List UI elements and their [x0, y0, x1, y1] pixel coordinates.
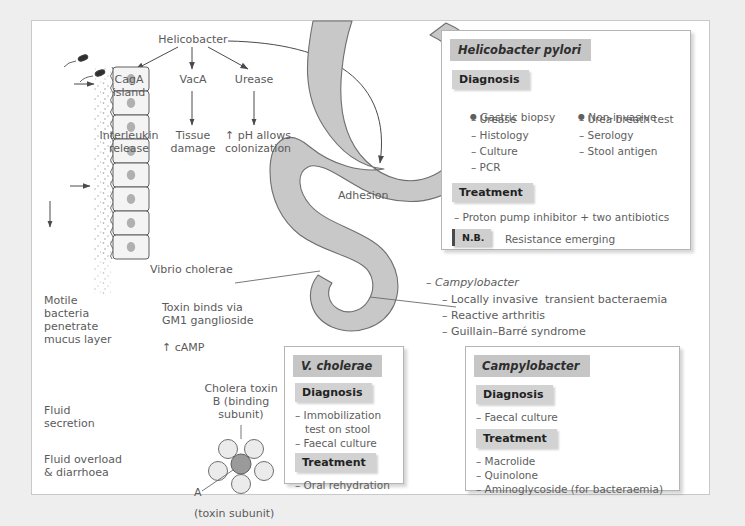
- vibrio-leader-line: [235, 271, 320, 283]
- hpylori-diagnosis-col2-item: – Stool antigen: [579, 145, 657, 158]
- campylobacter-info-box: Campylobacter Diagnosis – Faecal culture…: [465, 346, 680, 491]
- campylobacter-diagnosis-item: – Faecal culture: [476, 411, 558, 424]
- hpylori-info-box: Helicobacter pylori Diagnosis ● Gastric …: [441, 30, 691, 250]
- cholera-toxin-structure: [202, 425, 274, 494]
- factor-vaca-label: VacA: [180, 73, 207, 86]
- factor-urease-label: Urease: [235, 73, 273, 86]
- vcholerae-info-box: V. cholerae Diagnosis – Immobilization t…: [284, 346, 404, 484]
- campylobacter-note-item: – Locally invasive transient bacteraemia: [442, 293, 667, 306]
- hpylori-box-title: Helicobacter pylori: [450, 39, 591, 61]
- effect-colonization-label: ↑ pH allows colonization: [225, 129, 291, 155]
- intestinal-epithelium: [94, 83, 112, 295]
- adhesion-label: Adhesion: [338, 189, 389, 202]
- campylobacter-treatment-item: – Aminoglycoside (for bacteraemia): [476, 483, 663, 496]
- campylobacter-treatment-item: – Quinolone: [476, 469, 538, 482]
- hpylori-diagnosis-col2-item: – Serology: [579, 129, 633, 142]
- hpylori-diagnosis-col1-item: – Histology: [471, 129, 529, 142]
- cholera-toxin-title: Cholera toxin B (binding subunit): [204, 382, 277, 421]
- vcholerae-diagnosis-item: – Immobilization: [295, 409, 381, 422]
- subunit-a-label: A: [194, 486, 202, 499]
- cholera-arrows: [50, 84, 94, 227]
- hpylori-diagnosis-col1-item: – Urease: [471, 113, 516, 126]
- effect-tissue-label: Tissue damage: [171, 129, 216, 155]
- campylobacter-treatment-item: – Macrolide: [476, 455, 535, 468]
- vcholerae-diagnosis-item: – Faecal culture: [295, 437, 377, 450]
- toxin-binds-label: Toxin binds via GM1 ganglioside: [162, 301, 254, 327]
- vibrio-cholerae-label: Vibrio cholerae: [150, 263, 233, 276]
- campylobacter-box-title: Campylobacter: [474, 355, 590, 377]
- campylobacter-diagnosis-header: Diagnosis: [476, 385, 553, 404]
- figure-panel: Helicobacter CagA island VacA Urease Int…: [31, 20, 710, 495]
- vcholerae-treatment-item: – Oral rehydration: [295, 479, 390, 492]
- hpylori-treatment-header: Treatment: [452, 183, 533, 202]
- motile-bacteria: [64, 54, 106, 82]
- campylobacter-notes-heading: – Campylobacter: [426, 276, 519, 289]
- fluid-overload-label: Fluid overload & diarrhoea: [44, 453, 122, 479]
- epithelium-cells: [94, 65, 110, 261]
- hpylori-diagnosis-header: Diagnosis: [452, 70, 529, 89]
- nb-badge: N.B.: [452, 229, 491, 246]
- vcholerae-diagnosis-header: Diagnosis: [295, 383, 372, 402]
- campylobacter-treatment-header: Treatment: [476, 429, 557, 448]
- campylobacter-note-item: – Reactive arthritis: [442, 309, 545, 322]
- helicobacter-root-label: Helicobacter: [158, 33, 227, 46]
- subunit-a-note: (toxin subunit): [194, 507, 274, 520]
- hpylori-diagnosis-col1-item: – PCR: [471, 161, 501, 174]
- camp-label: ↑ cAMP: [162, 341, 204, 354]
- nb-text: Resistance emerging: [505, 233, 615, 246]
- hpylori-treatment-item: – Proton pump inhibitor + two antibiotic…: [454, 211, 669, 224]
- campylobacter-note-item: – Guillain–Barré syndrome: [442, 325, 586, 338]
- pathogenesis-arrows: [129, 47, 254, 125]
- hpylori-diagnosis-col2-item: – Urea breath test: [579, 113, 674, 126]
- vcholerae-box-title: V. cholerae: [293, 355, 382, 377]
- effect-interleukin-label: Interleukin release: [99, 129, 158, 155]
- fluid-secretion-label: Fluid secretion: [44, 404, 95, 430]
- motile-bacteria-label: Motile bacteria penetrate mucus layer: [44, 294, 112, 346]
- vcholerae-treatment-header: Treatment: [295, 453, 376, 472]
- vcholerae-diagnosis-item: test on stool: [295, 423, 370, 436]
- factor-caga-label: CagA island: [113, 73, 146, 99]
- hpylori-diagnosis-col1-item: – Culture: [471, 145, 518, 158]
